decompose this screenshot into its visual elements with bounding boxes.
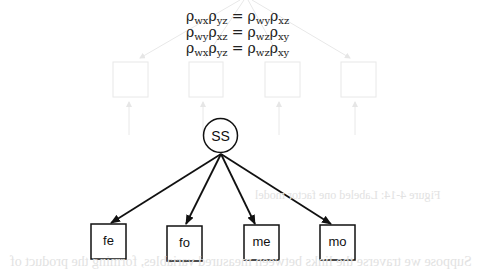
equation-2: ρwyρxz=ρwzρxy	[186, 24, 306, 40]
ghost-box-3	[265, 62, 300, 97]
indicator-label: fo	[179, 235, 190, 250]
indicator-label: mo	[328, 234, 346, 249]
ghost-box-2	[189, 62, 223, 97]
latent-label: SS	[211, 128, 230, 144]
ghost-box-4	[341, 62, 376, 97]
tetrad-equations: ρwxρyz=ρwyρxz ρwyρxz=ρwzρxy ρwxρyz=ρwzρx…	[186, 8, 306, 56]
indicator-label: fe	[103, 233, 114, 248]
ghost-paragraph-text: Suppose we traverse the links between me…	[10, 254, 490, 270]
indicator-label: me	[252, 234, 270, 249]
equation-3: ρwxρyz=ρwzρxy	[186, 40, 306, 56]
ghost-box-1	[113, 62, 148, 97]
ghost-figure-caption: Figure 4-14: Labeled one factor model	[255, 188, 441, 203]
equation-1: ρwxρyz=ρwyρxz	[186, 8, 306, 24]
latent-node-ss: SS	[204, 119, 238, 153]
